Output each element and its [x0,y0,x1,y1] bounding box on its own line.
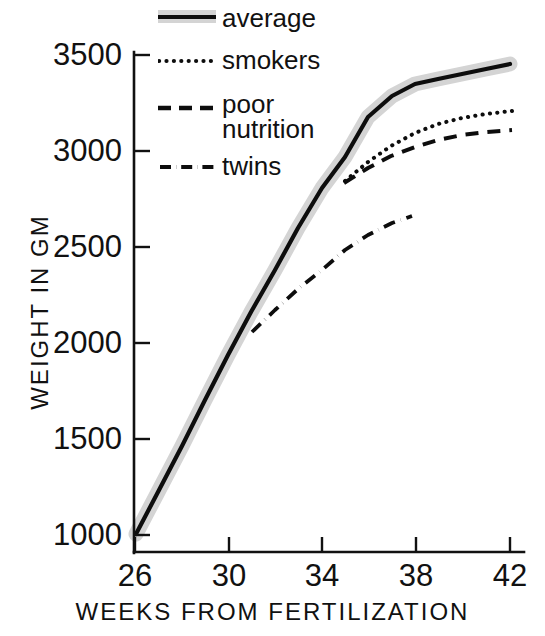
legend-item-smokers: smokers [158,48,320,74]
chart-figure: 3500 3000 2500 2000 1500 1000 26 30 34 3… [0,0,545,636]
x-tick-label-34: 34 [288,560,356,591]
x-tick-label-42: 42 [476,560,544,591]
legend-item-twins: twins [158,154,281,180]
dash-dot-swatch [158,154,220,180]
x-tick-label-26: 26 [101,560,169,591]
legend-label-average: average [222,6,316,31]
legend-label-twins: twins [222,154,281,179]
x-tick-label-38: 38 [382,560,450,591]
dotted-swatch [158,48,220,74]
dashed-swatch [158,92,220,118]
x-axis-ticks [135,537,510,552]
y-tick-label-3500: 3500 [18,39,122,70]
x-tick-label-30: 30 [195,560,263,591]
legend-label-smokers: smokers [222,48,320,73]
y-tick-label-3000: 3000 [18,135,122,166]
series-poor-nutrition-line [344,130,512,183]
y-axis-title: WEIGHT IN GM [28,212,52,412]
y-axis-ticks [134,55,150,535]
legend-item-poor-nutrition: poor nutrition [158,92,315,142]
solid-band-swatch [158,6,220,32]
y-tick-label-1000: 1000 [18,519,122,550]
y-tick-label-1500: 1500 [18,423,122,454]
legend-item-average: average [158,6,316,32]
x-axis-title: WEEKS FROM FERTILIZATION [0,600,545,624]
legend-label-poor-nutrition: poor nutrition [222,92,315,142]
